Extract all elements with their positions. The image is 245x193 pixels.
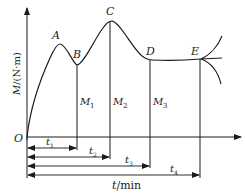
label-M1: M 1: [79, 96, 94, 110]
svg-text:3: 3: [163, 102, 167, 110]
label-t2: t 2: [89, 145, 97, 158]
x-axis-title: t/min: [112, 179, 141, 192]
label-origin: O: [14, 132, 23, 145]
torque-time-diagram: A B C D E O M 1 M 2 M 3 t 1 t 2 t 3 t 4 …: [0, 0, 245, 193]
label-t1: t 1: [46, 136, 54, 149]
svg-text:M/(N·m): M/(N·m): [11, 52, 22, 96]
svg-text:t/min: t/min: [112, 179, 141, 192]
label-t4: t 4: [170, 163, 178, 176]
label-M3: M 3: [152, 96, 167, 110]
svg-text:2: 2: [93, 151, 97, 158]
label-E: E: [190, 45, 199, 58]
y-axis-title: M/(N·m): [11, 52, 22, 96]
svg-text:2: 2: [123, 102, 127, 110]
svg-text:1: 1: [90, 102, 94, 110]
branch-flat: [201, 58, 222, 59]
svg-text:3: 3: [129, 160, 133, 167]
label-B: B: [72, 48, 81, 61]
label-D: D: [145, 45, 155, 58]
label-A: A: [51, 29, 60, 42]
branch-up: [201, 36, 222, 59]
label-M2: M 2: [112, 96, 127, 110]
label-C: C: [106, 5, 115, 18]
svg-text:1: 1: [50, 142, 54, 149]
svg-text:4: 4: [174, 169, 178, 176]
branch-down: [201, 59, 221, 84]
label-t3: t 3: [125, 154, 133, 167]
